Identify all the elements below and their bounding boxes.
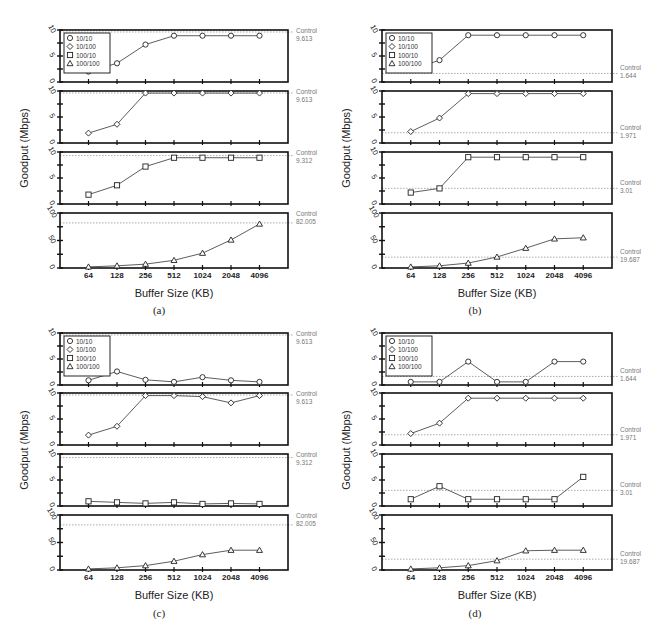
diamond-marker <box>523 395 529 401</box>
x-tick-label: 64 <box>406 573 415 582</box>
square-marker <box>494 155 499 160</box>
x-tick-label: 1024 <box>194 573 212 582</box>
circle-marker <box>200 33 205 38</box>
circle-icon <box>67 35 72 40</box>
diamond-marker <box>494 395 500 401</box>
circle-marker <box>143 377 148 382</box>
legend-label: 100/10 <box>76 355 96 362</box>
control-label: Control <box>296 27 318 34</box>
circle-marker <box>581 33 586 38</box>
caption-d: (d) <box>308 607 642 619</box>
chart-d: Control1.644051010/1010/100100/10100/100… <box>334 320 668 640</box>
diamond-marker <box>408 129 414 135</box>
y-tick-label: 5 <box>47 414 57 422</box>
square-marker <box>143 501 148 506</box>
square-marker <box>171 500 176 505</box>
circle-marker <box>581 359 586 364</box>
y-tick-label: 10 <box>46 23 58 35</box>
triangle-marker <box>552 547 558 552</box>
control-value: 82.005 <box>296 218 316 225</box>
y-tick-label: 100 <box>367 506 381 521</box>
x-tick-label: 64 <box>406 271 415 280</box>
y-tick-label: 10 <box>46 447 58 459</box>
circle-marker <box>466 359 471 364</box>
panel-10-10: Control1.644051010/1010/100100/10100/100 <box>368 23 641 85</box>
diamond-marker <box>228 400 234 406</box>
x-tick-label: 256 <box>462 271 476 280</box>
y-tick-label: 10 <box>368 23 380 35</box>
legend-label: 100/10 <box>398 355 418 362</box>
panel-10-10: Control9.613051010/1010/100100/10100/100 <box>46 23 317 85</box>
square-marker <box>523 497 528 502</box>
y-tick-label: 5 <box>47 354 57 362</box>
x-tick-label: 128 <box>433 573 447 582</box>
circle-marker <box>200 375 205 380</box>
y-tick-label: 5 <box>369 475 379 483</box>
x-tick-label: 256 <box>462 573 476 582</box>
panel-100-10: Control9.3120510 <box>46 447 317 509</box>
square-marker <box>86 192 91 197</box>
square-marker <box>437 186 442 191</box>
y-tick-label: 0 <box>47 263 57 271</box>
series-line <box>411 238 584 267</box>
x-tick-label: 2048 <box>222 271 240 280</box>
circle-icon <box>389 338 394 343</box>
legend-label: 10/100 <box>398 346 418 353</box>
x-tick-label: 1024 <box>517 271 535 280</box>
x-tick-label: 2048 <box>222 573 240 582</box>
square-icon <box>389 52 394 57</box>
square-marker <box>257 501 262 506</box>
legend-label: 100/100 <box>76 363 100 370</box>
y-tick-label: 5 <box>369 112 379 120</box>
y-tick-label: 5 <box>369 414 379 422</box>
x-tick-label: 4096 <box>251 271 269 280</box>
y-tick-label: 10 <box>368 84 380 96</box>
panel-10-100: Control9.6130510 <box>46 386 317 448</box>
control-value: 9.613 <box>296 338 313 345</box>
series-line <box>411 94 584 132</box>
control-label: Control <box>620 179 642 186</box>
panel-10-100: Control1.9710510 <box>368 84 641 146</box>
figure-c: Control9.613051010/1010/100100/10100/100… <box>0 320 334 640</box>
x-axis-label: Buffer Size (KB) <box>135 287 214 299</box>
y-tick-label: 50 <box>368 233 380 245</box>
control-label: Control <box>296 330 318 337</box>
y-tick-label: 5 <box>47 112 57 120</box>
circle-marker <box>494 379 499 384</box>
diamond-marker <box>200 394 206 400</box>
x-tick-label: 4096 <box>251 573 269 582</box>
legend-label: 10/100 <box>398 43 418 50</box>
x-tick-label: 1024 <box>517 573 535 582</box>
panel-10-100: Control9.6130510 <box>46 84 317 146</box>
square-marker <box>200 155 205 160</box>
panel-10-10: Control9.613051010/1010/100100/10100/100 <box>46 326 317 388</box>
control-label: Control <box>620 481 642 488</box>
circle-marker <box>257 33 262 38</box>
y-tick-label: 10 <box>46 84 58 96</box>
series-line <box>89 396 260 436</box>
panel-100-100: Control82.005050100 <box>45 204 317 271</box>
control-value: 9.312 <box>296 157 313 164</box>
square-marker <box>466 155 471 160</box>
circle-marker <box>171 379 176 384</box>
control-value: 19.687 <box>620 558 640 565</box>
x-tick-label: 512 <box>490 271 504 280</box>
control-label: Control <box>296 451 318 458</box>
control-value: 1.971 <box>620 132 637 139</box>
y-tick-label: 5 <box>369 173 379 181</box>
panel-100-100: Control19.687050100 <box>367 506 641 573</box>
x-tick-label: 128 <box>110 573 124 582</box>
legend-label: 10/100 <box>76 43 96 50</box>
triangle-marker <box>580 235 586 240</box>
y-tick-label: 10 <box>46 326 58 338</box>
figure-a: Control9.613051010/1010/100100/10100/100… <box>0 0 334 320</box>
series-line <box>89 93 260 133</box>
x-tick-label: 128 <box>110 271 124 280</box>
y-axis-label: Goodput (Mbps) <box>340 108 352 187</box>
control-label: Control <box>620 426 642 433</box>
control-label: Control <box>620 124 642 131</box>
circle-marker <box>408 379 413 384</box>
panel-100-10: Control9.3120510 <box>46 145 317 207</box>
square-marker <box>143 164 148 169</box>
series-line <box>411 398 584 433</box>
